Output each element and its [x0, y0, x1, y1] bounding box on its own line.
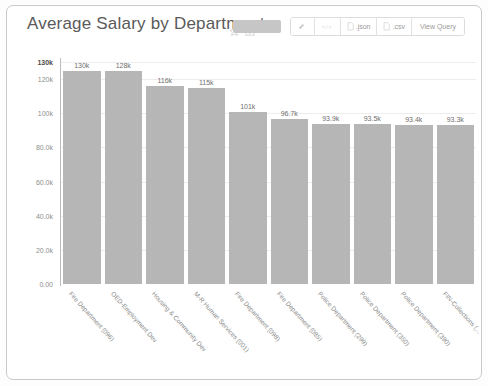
status-badge[interactable] [233, 20, 281, 33]
x-axis-tick-label: Fire Department (096) [68, 290, 116, 342]
bar-series: 130k128k116k115k101k96.7k93.9k93.5k93.4k… [61, 62, 476, 284]
chart-header: Average Salary by Department [7, 6, 481, 46]
bar-item[interactable]: 128k [103, 62, 145, 284]
download-json-label: .json [356, 23, 371, 30]
bar[interactable] [271, 119, 309, 284]
chart-card: Average Salary by Department [6, 5, 482, 380]
view-query-button[interactable]: View Query [412, 18, 464, 35]
bar-value-label: 93.4k [405, 116, 422, 123]
plot-area: 130k128k116k115k101k96.7k93.9k93.5k93.4k… [61, 62, 476, 284]
y-axis-tick-label: 60.0k [36, 178, 53, 185]
x-axis-labels: Fire Department (096)OED-Employment DevH… [61, 290, 481, 380]
bar-value-label: 93.9k [322, 115, 339, 122]
bar-item[interactable]: 101k [227, 62, 269, 284]
y-axis-tick-label: 40.0k [36, 212, 53, 219]
bar[interactable] [229, 112, 267, 284]
y-axis-tick-label: 20.0k [36, 246, 53, 253]
bar-value-label: 93.5k [364, 115, 381, 122]
export-toolbar: </> .json .csv View Query [233, 17, 465, 36]
bar-value-label: 128k [116, 62, 131, 69]
download-csv-label: .csv [392, 23, 404, 30]
embed-icon-button[interactable]: </> [315, 18, 341, 35]
bar-item[interactable]: 93.5k [352, 62, 394, 284]
x-axis-tick-label: Fire Department (085) [276, 290, 324, 342]
bar-value-label: 93.3k [447, 116, 464, 123]
toolbar-button-group: </> .json .csv View Query [290, 17, 465, 36]
bar[interactable] [312, 124, 350, 284]
bar-item[interactable]: 96.7k [269, 62, 311, 284]
y-axis-tick-label: 0.00 [39, 281, 53, 288]
bar-value-label: 115k [199, 79, 214, 86]
bar[interactable] [105, 71, 143, 284]
bar-item[interactable]: 130k [61, 62, 103, 284]
x-axis-tick-label: OED-Employment Dev [110, 290, 159, 344]
bar-item[interactable]: 116k [144, 62, 186, 284]
bar[interactable] [146, 86, 184, 284]
bar-item[interactable]: 93.4k [393, 62, 435, 284]
bar-item[interactable]: 93.3k [435, 62, 477, 284]
bar[interactable] [354, 124, 392, 284]
bar-value-label: 96.7k [281, 110, 298, 117]
bar-item[interactable]: 93.9k [310, 62, 352, 284]
view-query-label: View Query [420, 23, 456, 30]
svg-text:</>: </> [321, 24, 331, 31]
y-axis-tick-label: 120k [38, 76, 53, 83]
x-axis-tick-label: FIN-Collections (... [442, 290, 483, 335]
bar-item[interactable]: 115k [186, 62, 228, 284]
download-csv-button[interactable]: .csv [377, 18, 411, 35]
bar[interactable] [437, 125, 475, 284]
y-axis-tick-label: 80.0k [36, 144, 53, 151]
x-axis-tick-label: Fire Department (098) [234, 290, 282, 342]
download-json-button[interactable]: .json [341, 18, 378, 35]
bar-value-label: 130k [74, 62, 89, 69]
bar[interactable] [63, 71, 101, 284]
bar[interactable] [395, 125, 433, 284]
bar-value-label: 101k [240, 103, 255, 110]
pen-icon-button[interactable] [291, 18, 315, 35]
bar-value-label: 116k [157, 77, 172, 84]
chart-page: Average Salary by Department [0, 0, 488, 386]
y-axis-labels: 0.0020.0k40.0k60.0k80.0k100k120k130k [7, 46, 57, 296]
y-axis-tick-label: 100k [38, 110, 53, 117]
chart-body: 0.0020.0k40.0k60.0k80.0k100k120k130k 130… [7, 46, 481, 379]
y-axis-tick-label: 130k [37, 59, 53, 66]
bar[interactable] [188, 88, 226, 284]
